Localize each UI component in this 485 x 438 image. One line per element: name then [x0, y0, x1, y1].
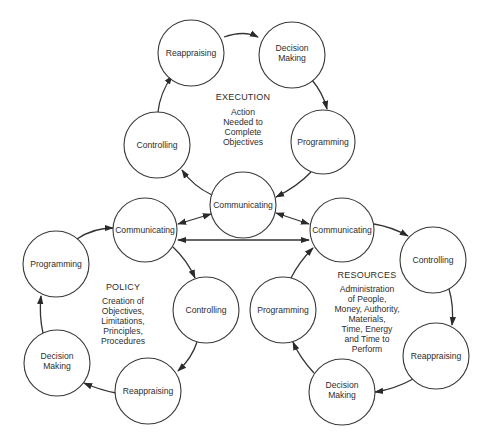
svg-text:Limitations,: Limitations,: [101, 316, 144, 326]
edge-re-decision-to-programming: [293, 342, 314, 373]
svg-text:Administration: Administration: [340, 284, 395, 294]
svg-text:Decision: Decision: [276, 43, 309, 53]
edge-po-communicating-to-controlling: [173, 247, 195, 278]
edge-po-controlling-to-reappraising: [178, 342, 197, 371]
svg-text:Programming: Programming: [297, 137, 349, 147]
svg-text:Objectives: Objectives: [223, 137, 263, 147]
edge-center-po-communicating: [178, 214, 211, 224]
svg-text:of People,: of People,: [348, 294, 387, 304]
node-re-programming: Programming: [250, 277, 316, 343]
svg-text:Controlling: Controlling: [136, 140, 177, 150]
node-re-communicating: Communicating: [310, 198, 374, 262]
svg-text:Money, Authority,: Money, Authority,: [334, 304, 399, 314]
node-po-reappraising: Reappraising: [115, 358, 181, 424]
svg-text:Reappraising: Reappraising: [166, 48, 217, 58]
node-ex-programming: Programming: [291, 110, 355, 174]
edge-ex-controlling-to-reappraising: [158, 76, 172, 112]
svg-text:Making: Making: [43, 361, 71, 371]
node-center-communicating: Communicating: [210, 172, 276, 238]
node-re-controlling: Controlling: [400, 227, 466, 293]
edge-po-reappraising-to-decision: [84, 383, 116, 393]
svg-text:Reappraising: Reappraising: [411, 351, 462, 361]
svg-text:Principles,: Principles,: [103, 326, 143, 336]
svg-text:Needed to: Needed to: [223, 117, 263, 127]
svg-text:POLICY: POLICY: [106, 282, 140, 292]
node-re-reappraising: Reappraising: [403, 323, 469, 389]
node-re-decision-making: Decision Making: [309, 359, 375, 425]
node-po-programming: Programming: [23, 231, 89, 297]
svg-text:Communicating: Communicating: [115, 225, 175, 235]
node-po-controlling: Controlling: [173, 277, 239, 343]
edge-po-programming-to-communicating: [77, 228, 113, 239]
svg-text:Communicating: Communicating: [312, 225, 372, 235]
edge-re-controlling-to-reappraising: [449, 289, 453, 325]
svg-text:Programming: Programming: [257, 305, 309, 315]
svg-text:Programming: Programming: [30, 259, 82, 269]
node-po-communicating: Communicating: [113, 198, 177, 262]
svg-text:Making: Making: [278, 53, 306, 63]
node-ex-controlling: Controlling: [124, 112, 190, 178]
svg-text:and Time to: and Time to: [345, 334, 390, 344]
management-cycles-diagram: Reappraising Decision Making Programming…: [0, 0, 485, 438]
svg-text:EXECUTION: EXECUTION: [216, 92, 270, 102]
svg-text:Controlling: Controlling: [412, 255, 453, 265]
edge-ex-reappraising-to-decision: [224, 34, 258, 38]
svg-text:Action: Action: [231, 107, 255, 117]
svg-text:Procedures: Procedures: [101, 336, 145, 346]
svg-text:Decision: Decision: [41, 351, 74, 361]
node-po-decision-making: Decision Making: [24, 330, 90, 396]
node-ex-reappraising: Reappraising: [158, 20, 224, 86]
svg-text:Time, Energy: Time, Energy: [342, 324, 393, 334]
svg-text:Materials,: Materials,: [348, 314, 385, 324]
edge-ex-programming-to-center: [276, 172, 311, 197]
edge-re-programming-to-communicating: [291, 248, 313, 278]
resources-caption: RESOURCES Administration of People, Mone…: [334, 270, 399, 354]
svg-text:Decision: Decision: [326, 380, 359, 390]
node-ex-decision-making: Decision Making: [259, 22, 325, 88]
svg-text:Creation of: Creation of: [102, 296, 145, 306]
policy-caption: POLICY Creation of Objectives, Limitatio…: [101, 282, 145, 346]
svg-text:Objectives,: Objectives,: [102, 306, 145, 316]
svg-text:Complete: Complete: [225, 127, 262, 137]
svg-text:Controlling: Controlling: [185, 305, 226, 315]
svg-text:Reappraising: Reappraising: [123, 386, 174, 396]
edge-ex-decision-to-programming: [312, 80, 327, 109]
svg-text:Making: Making: [328, 390, 356, 400]
execution-caption: EXECUTION Action Needed to Complete Obje…: [216, 92, 270, 147]
edge-center-re-communicating: [276, 213, 309, 224]
svg-text:Perform: Perform: [352, 344, 383, 354]
svg-text:Communicating: Communicating: [213, 200, 273, 210]
edge-po-decision-to-programming: [40, 296, 43, 333]
edge-re-reappraising-to-decision: [375, 379, 413, 392]
edge-re-communicating-to-controlling: [374, 224, 408, 236]
svg-text:RESOURCES: RESOURCES: [338, 270, 397, 280]
edge-center-to-ex-controlling: [182, 170, 212, 195]
